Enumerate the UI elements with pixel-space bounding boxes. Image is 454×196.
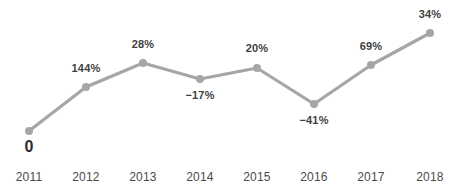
- data-label-2014: −17%: [185, 89, 214, 101]
- x-axis-tick-2018: 2018: [416, 170, 444, 184]
- x-axis-tick-2013: 2013: [129, 170, 157, 184]
- data-point-2017[interactable]: [367, 61, 375, 69]
- x-axis-tick-2012: 2012: [72, 170, 100, 184]
- data-point-2011[interactable]: [25, 127, 33, 135]
- data-point-2018[interactable]: [426, 29, 434, 37]
- x-axis-tick-2011: 2011: [16, 170, 43, 184]
- data-label-2011: 0: [25, 138, 34, 156]
- data-point-2015[interactable]: [253, 64, 261, 72]
- data-point-2013[interactable]: [139, 59, 147, 67]
- data-point-2012[interactable]: [82, 83, 90, 91]
- data-point-2016[interactable]: [310, 100, 318, 108]
- data-label-2017: 69%: [360, 40, 383, 52]
- data-label-2013: 28%: [132, 38, 155, 50]
- data-label-2016: −41%: [299, 114, 328, 126]
- data-label-2012: 144%: [72, 62, 101, 74]
- x-axis-tick-2015: 2015: [243, 170, 271, 184]
- x-axis-tick-2016: 2016: [300, 170, 328, 184]
- data-label-2018: 34%: [419, 8, 442, 20]
- x-axis-tick-2017: 2017: [357, 170, 385, 184]
- x-axis-tick-2014: 2014: [186, 170, 214, 184]
- line-chart: 0 144% 28% −17% 20% −41% 69% 34% 2011 20…: [0, 0, 454, 196]
- chart-plot-area: [0, 0, 454, 196]
- data-point-2014[interactable]: [196, 75, 204, 83]
- data-label-2015: 20%: [246, 42, 269, 54]
